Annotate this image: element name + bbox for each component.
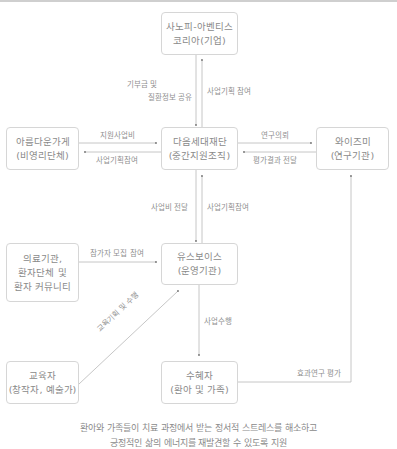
node-beneficiary: 수혜자 (환아 및 가족)	[161, 361, 238, 404]
node-areumdaun: 아름다운가게 (비영리단체)	[6, 127, 79, 170]
edge-label-execution: 사업수행	[204, 317, 232, 327]
node-medical-line2: 환자단체 및	[18, 266, 66, 280]
edge-label-donation-2: 질환정보 공유	[148, 93, 192, 103]
node-educator-line1: 교육자	[29, 369, 56, 383]
edge-label-effect-eval: 효과연구 평가	[297, 369, 341, 379]
node-foundation-line2: (중간지원조직)	[169, 149, 230, 163]
edge-label-support-fund: 지원사업비	[100, 131, 135, 141]
node-areumdaun-line1: 아름다운가게	[16, 135, 70, 149]
node-youthvoice-line1: 유스보이스	[177, 250, 222, 264]
edge-label-areum-planning: 사업기획참여	[96, 156, 138, 166]
node-beneficiary-line1: 수혜자	[186, 369, 213, 383]
caption-line1: 환아와 가족들이 치료 과정에서 받는 정서적 스트레스를 해소하고	[0, 421, 397, 434]
node-medical: 의료기관, 환자단체 및 환자 커뮤니티	[6, 243, 79, 302]
edge-label-donation-1: 기부금 및	[127, 80, 157, 90]
node-wisemi-line1: 와이즈미	[335, 135, 371, 149]
node-sanofi-line1: 사노피-아벤티스	[166, 20, 232, 34]
node-youthvoice-line2: (운영기관)	[178, 264, 221, 278]
node-educator-line2: (창작자, 예술가)	[9, 383, 76, 397]
edge-label-eval-result: 평가결과 전달	[253, 156, 297, 166]
edge-label-sanofi-planning: 사업기획 참여	[207, 87, 251, 97]
caption-line2: 긍정적인 삶의 에너지를 재발견할 수 있도록 지원	[0, 436, 397, 449]
node-youthvoice: 유스보이스 (운영기관)	[161, 243, 238, 285]
node-medical-line3: 환자 커뮤니티	[14, 280, 71, 294]
edge-label-fund-transfer: 사업비 전달	[151, 203, 188, 213]
edge-label-recruit: 참가자 모집 참여	[90, 249, 144, 259]
node-medical-line1: 의료기관,	[23, 252, 62, 266]
edge-label-youth-planning: 사업기획참여	[207, 203, 249, 213]
edge-label-research-request: 연구의뢰	[261, 131, 289, 141]
node-foundation: 다음세대재단 (중간지원조직)	[161, 127, 238, 170]
node-beneficiary-line2: (환아 및 가족)	[170, 383, 228, 397]
node-educator: 교육자 (창작자, 예술가)	[6, 361, 79, 404]
node-wisemi: 와이즈미 (연구기관)	[316, 127, 389, 170]
node-sanofi: 사노피-아벤티스 코리아(기업)	[161, 12, 238, 55]
node-wisemi-line2: (연구기관)	[331, 149, 374, 163]
node-areumdaun-line2: (비영리단체)	[16, 149, 68, 163]
node-sanofi-line2: 코리아(기업)	[173, 34, 225, 48]
node-foundation-line1: 다음세대재단	[173, 135, 227, 149]
